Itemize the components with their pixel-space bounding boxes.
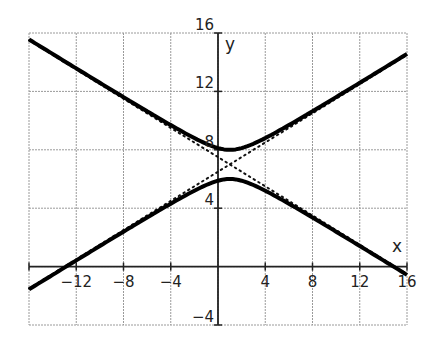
x-tick-label: 8: [308, 273, 318, 291]
x-axis-label: x: [392, 236, 402, 256]
y-tick-label: 8: [204, 133, 214, 151]
tick-labels: −12−8−4481216161284−4: [60, 16, 416, 326]
y-tick-label: 16: [195, 16, 214, 34]
y-tick-label: −4: [192, 308, 214, 326]
y-tick-label: 12: [195, 74, 214, 92]
y-tick-label: 4: [204, 191, 214, 209]
y-axis-label: y: [225, 34, 235, 54]
x-tick-label: −12: [60, 273, 92, 291]
x-tick-label: 4: [260, 273, 270, 291]
x-tick-label: 16: [397, 273, 416, 291]
x-tick-label: −4: [160, 273, 182, 291]
hyperbola-chart: −12−8−4481216161284−4 x y: [0, 0, 435, 344]
x-tick-label: −8: [112, 273, 134, 291]
x-tick-label: 12: [350, 273, 369, 291]
